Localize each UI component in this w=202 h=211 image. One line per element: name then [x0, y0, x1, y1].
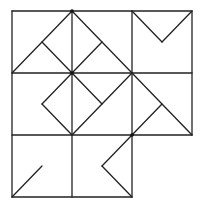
diagonal-segment: [42, 104, 72, 135]
cell-top-left: [12, 11, 72, 73]
cell-middle-center: [72, 73, 132, 135]
diagonal-segment: [42, 73, 72, 104]
diagonal-segment: [72, 42, 102, 73]
diagonal-segment: [102, 166, 132, 197]
cell-top-right: [132, 11, 192, 42]
cell-bottom-center: [102, 135, 132, 197]
diagonal-segment: [102, 135, 132, 166]
vertex-dot: [130, 133, 134, 137]
diagonal-segment: [132, 11, 162, 42]
cell-bottom-left: [12, 166, 42, 197]
line-diagram: [0, 0, 202, 211]
cell-middle-right: [132, 73, 192, 135]
diagonal-segment: [42, 42, 72, 73]
cell-top-center: [72, 11, 132, 73]
cell-segments: [12, 11, 192, 197]
diagonal-segment: [12, 166, 42, 197]
vertex-dot: [70, 9, 74, 13]
diagonal-segment: [72, 73, 102, 104]
diagonal-segment: [162, 11, 192, 42]
diagonal-segment: [132, 104, 162, 135]
cell-middle-left: [42, 73, 72, 135]
vertex-dot: [70, 71, 74, 75]
